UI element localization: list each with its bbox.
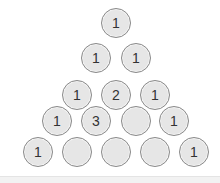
cell-r5-c5[interactable]: 1	[179, 137, 209, 167]
cell-r2-c2[interactable]: 1	[121, 43, 151, 73]
pascal-triangle-board: 1 1 1 1 2 1 1 3 1 1 1	[0, 0, 220, 176]
cell-r3-c1[interactable]: 1	[62, 80, 92, 110]
cell-r5-c3[interactable]	[101, 137, 131, 167]
cell-r4-c3[interactable]	[121, 106, 151, 136]
cell-r4-c2[interactable]: 3	[81, 106, 111, 136]
cell-r1-c1[interactable]: 1	[101, 8, 131, 38]
cell-r5-c2[interactable]	[62, 137, 92, 167]
footer-band	[0, 176, 220, 183]
cell-r2-c1[interactable]: 1	[81, 43, 111, 73]
cell-r3-c3[interactable]: 1	[140, 80, 170, 110]
cell-r3-c2[interactable]: 2	[101, 80, 131, 110]
cell-r5-c1[interactable]: 1	[23, 137, 53, 167]
cell-r4-c4[interactable]: 1	[159, 106, 189, 136]
cell-r5-c4[interactable]	[140, 137, 170, 167]
cell-r4-c1[interactable]: 1	[42, 106, 72, 136]
